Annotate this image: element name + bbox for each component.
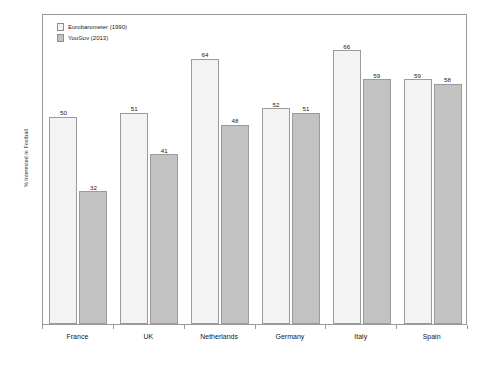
x-axis-tick: [42, 325, 43, 329]
x-axis-label: France: [67, 333, 89, 340]
bar-value-label: 64: [202, 51, 209, 58]
bar[interactable]: 52: [262, 108, 290, 324]
bar-group: 5141: [114, 15, 185, 324]
bar-value-label: 66: [343, 43, 350, 50]
bar-group: 5032: [43, 15, 114, 324]
bar[interactable]: 32: [79, 191, 107, 324]
x-axis-tick: [184, 325, 185, 329]
y-axis-title: % Interested in Football: [20, 0, 32, 318]
bar[interactable]: 66: [333, 50, 361, 324]
chart-figure: % Interested in Football Eurobarometer (…: [0, 0, 490, 368]
x-axis-label: Spain: [423, 333, 441, 340]
bar[interactable]: 64: [191, 59, 219, 324]
x-axis-tick: [113, 325, 114, 329]
bar-group: 6448: [185, 15, 256, 324]
bar[interactable]: 58: [434, 84, 462, 325]
bar-value-label: 48: [232, 117, 239, 124]
x-axis-tick: [467, 325, 468, 329]
x-axis-label: Italy: [354, 333, 367, 340]
bar-value-label: 41: [161, 147, 168, 154]
bar-value-label: 50: [60, 109, 67, 116]
x-axis-tick: [325, 325, 326, 329]
bar[interactable]: 51: [120, 113, 148, 324]
bar-group: 6659: [326, 15, 397, 324]
x-axis-tick: [396, 325, 397, 329]
bar-value-label: 59: [414, 72, 421, 79]
bar[interactable]: 48: [221, 125, 249, 324]
bar-value-label: 52: [272, 101, 279, 108]
bar[interactable]: 51: [292, 113, 320, 324]
x-axis-label: Germany: [276, 333, 305, 340]
bar-value-label: 58: [444, 76, 451, 83]
bar-value-label: 59: [373, 72, 380, 79]
bar[interactable]: 41: [150, 154, 178, 324]
bars-container: 503251416448525166595958: [43, 15, 466, 324]
bar-group: 5958: [397, 15, 468, 324]
x-axis-tick: [255, 325, 256, 329]
bar-value-label: 32: [90, 184, 97, 191]
bar[interactable]: 59: [404, 79, 432, 324]
plot-area: Eurobarometer (1990) YouGov (2013) 50325…: [42, 14, 467, 325]
bar-value-label: 51: [131, 105, 138, 112]
bar[interactable]: 50: [49, 117, 77, 324]
bar-value-label: 51: [302, 105, 309, 112]
x-axis: FranceUKNetherlandsGermanyItalySpain: [42, 325, 467, 351]
bar-group: 5251: [256, 15, 327, 324]
x-axis-label: UK: [143, 333, 153, 340]
x-axis-label: Netherlands: [200, 333, 238, 340]
bar[interactable]: 59: [363, 79, 391, 324]
